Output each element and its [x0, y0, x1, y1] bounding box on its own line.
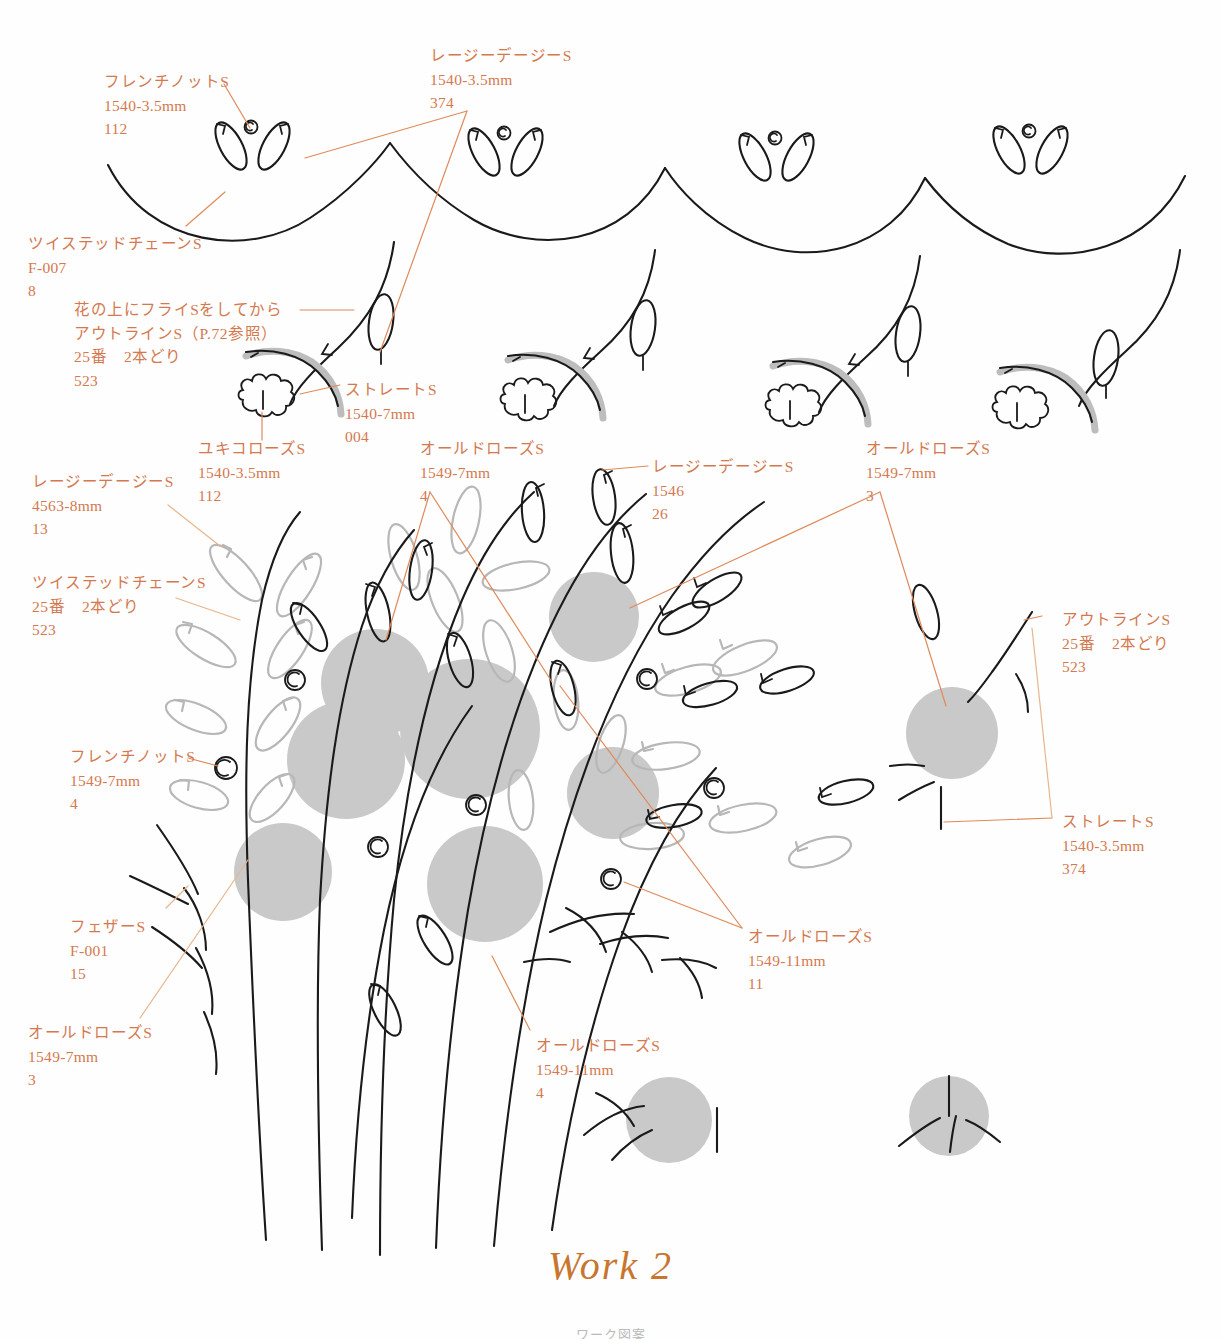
label-straight-right: ストレートS1540-3.5mm374	[1062, 810, 1154, 881]
label-line: オールドローズS	[420, 437, 544, 461]
drooping-sprig-4	[993, 250, 1181, 430]
label-yukiko-rose: ユキコローズS1540-3.5mm112	[198, 437, 306, 508]
label-french-knot-top: フレンチノットS1540-3.5mm112	[104, 70, 229, 141]
label-line: レージーデージーS	[32, 470, 174, 494]
yukiko-rose-cluster-2	[501, 378, 557, 420]
rose-circle	[567, 747, 659, 839]
label-outline-right: アウトラインS25番 2本どり523	[1062, 608, 1171, 679]
label-line: 1549-7mm	[420, 461, 544, 485]
label-line: F-001	[70, 939, 146, 963]
label-line: F-007	[28, 256, 202, 280]
label-line: フレンチノットS	[70, 745, 195, 769]
label-twisted-chain-25: ツイステッドチェーンS25番 2本どり523	[32, 571, 206, 642]
label-line: 374	[1062, 857, 1154, 881]
label-line: 25番 2本どり	[74, 345, 282, 369]
french-knot	[704, 778, 724, 798]
label-line: 3	[28, 1068, 152, 1092]
french-knot	[368, 837, 388, 857]
yukiko-rose-cluster-3	[766, 384, 822, 426]
label-line: 1540-3.5mm	[198, 461, 306, 485]
label-line: ストレートS	[1062, 810, 1154, 834]
swag-motif-4	[987, 122, 1074, 178]
label-line: 4	[420, 484, 544, 508]
label-fly-then-outline: 花の上にフライSをしてからアウトラインS（P.72参照）25番 2本どり523	[74, 298, 282, 392]
label-line: 1540-7mm	[345, 402, 437, 426]
drooping-sprig-2	[501, 250, 659, 420]
label-lazy-daisy-1546: レージーデージーS154626	[652, 455, 794, 526]
pattern-page: .ink{fill:none;stroke:#1a1a1a;stroke-wid…	[0, 0, 1221, 1339]
label-line: ツイステッドチェーンS	[28, 232, 202, 256]
label-line: ツイステッドチェーンS	[32, 571, 206, 595]
label-line: アウトラインS	[1062, 608, 1171, 632]
label-line: オールドローズS	[28, 1021, 152, 1045]
label-line: オールドローズS	[748, 925, 872, 949]
label-line: 1549-7mm	[28, 1045, 152, 1069]
label-lazy-daisy-4563: レージーデージーS4563-8mm13	[32, 470, 174, 541]
swag-motif-2	[462, 124, 549, 180]
label-feather-f001: フェザーSF-00115	[70, 915, 146, 986]
label-french-knot-1549: フレンチノットS1549-7mm4	[70, 745, 195, 816]
feather-branch-bouquet	[524, 908, 716, 998]
pattern-artwork: .ink{fill:none;stroke:#1a1a1a;stroke-wid…	[0, 0, 1221, 1339]
label-line: レージーデージーS	[430, 44, 572, 68]
label-line: 25番 2本どり	[32, 595, 206, 619]
label-old-rose-11mm-bottom: オールドローズS1549-11mm4	[536, 1034, 660, 1105]
label-line: 26	[652, 502, 794, 526]
label-line: 1549-7mm	[866, 461, 990, 485]
label-line: オールドローズS	[866, 437, 990, 461]
label-line: 1549-11mm	[748, 949, 872, 973]
label-line: アウトラインS（P.72参照）	[74, 322, 282, 346]
label-line: ユキコローズS	[198, 437, 306, 461]
swag-motif-3	[733, 129, 820, 185]
label-line: 1549-11mm	[536, 1058, 660, 1082]
label-old-rose-7mm-center: オールドローズS1549-7mm4	[420, 437, 544, 508]
label-line: フェザーS	[70, 915, 146, 939]
french-knot	[601, 869, 621, 889]
label-line: 1549-7mm	[70, 769, 195, 793]
label-line: 花の上にフライSをしてから	[74, 298, 282, 322]
yukiko-rose-cluster-4	[993, 386, 1049, 428]
label-line: 523	[74, 369, 282, 393]
label-line: フレンチノットS	[104, 70, 229, 94]
work-title: Work 2	[0, 1242, 1221, 1289]
french-knot	[285, 670, 305, 690]
label-line: 523	[1062, 655, 1171, 679]
label-line: レージーデージーS	[652, 455, 794, 479]
label-lazy-daisy-top: レージーデージーS1540-3.5mm374	[430, 44, 572, 115]
rose-circle	[549, 572, 639, 662]
label-line: 112	[198, 484, 306, 508]
page-footnote: ワーク図案	[0, 1324, 1221, 1339]
french-knot	[637, 669, 657, 689]
label-line: 374	[430, 91, 572, 115]
label-line: 1540-3.5mm	[104, 94, 229, 118]
label-line: 4563-8mm	[32, 494, 174, 518]
label-line: 1540-3.5mm	[430, 68, 572, 92]
label-line: ストレートS	[345, 378, 437, 402]
label-line: 11	[748, 972, 872, 996]
french-knot	[466, 795, 486, 815]
label-line: 25番 2本どり	[1062, 632, 1171, 656]
label-line: オールドローズS	[536, 1034, 660, 1058]
label-line: 3	[866, 484, 990, 508]
label-line: 1540-3.5mm	[1062, 834, 1154, 858]
label-line: 1546	[652, 479, 794, 503]
label-twisted-chain-top: ツイステッドチェーンSF-0078	[28, 232, 202, 303]
drooping-sprig-3	[766, 256, 924, 426]
label-line: 4	[536, 1081, 660, 1105]
label-line: 13	[32, 517, 174, 541]
label-line: 112	[104, 117, 229, 141]
label-line: 4	[70, 792, 195, 816]
rose-circle	[287, 701, 405, 819]
label-line: 523	[32, 618, 206, 642]
label-line: 15	[70, 962, 146, 986]
label-old-rose-7mm-left: オールドローズS1549-7mm3	[28, 1021, 152, 1092]
label-old-rose-11mm-right: オールドローズS1549-11mm11	[748, 925, 872, 996]
french-knot	[215, 757, 237, 779]
rose-circle	[427, 826, 543, 942]
label-old-rose-7mm-right: オールドローズS1549-7mm3	[866, 437, 990, 508]
